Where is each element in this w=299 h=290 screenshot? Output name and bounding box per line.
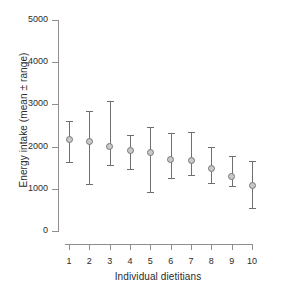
error-bar-cap-lower (147, 192, 154, 193)
data-point-marker (127, 147, 134, 154)
y-tick-label: 5000 (14, 15, 48, 24)
error-bar-chart: Energy intake (mean ± range) 01000200030… (0, 0, 299, 290)
y-tick-mark (52, 62, 58, 63)
error-bar-cap-upper (188, 132, 195, 133)
x-tick-mark (89, 244, 90, 250)
x-tick-mark (110, 244, 111, 250)
x-tick-label: 2 (79, 256, 99, 266)
data-point-marker (228, 173, 235, 180)
x-tick-mark (150, 244, 151, 250)
error-bar-cap-lower (127, 169, 134, 170)
error-bar-line (191, 132, 192, 175)
y-tick-label: 3000 (14, 99, 48, 108)
error-bar-cap-upper (127, 135, 134, 136)
x-tick-mark (211, 244, 212, 250)
x-tick-label: 8 (201, 256, 221, 266)
x-tick-mark (130, 244, 131, 250)
data-point-marker (86, 138, 93, 145)
x-tick-mark (69, 244, 70, 250)
error-bar-cap-lower (86, 184, 93, 185)
y-tick-mark (52, 189, 58, 190)
y-tick-mark (52, 104, 58, 105)
y-tick-label: 2000 (14, 142, 48, 151)
y-tick-label: 0 (14, 226, 48, 235)
x-tick-label: 6 (161, 256, 181, 266)
x-tick-mark (171, 244, 172, 250)
data-point-marker (188, 157, 195, 164)
error-bar-cap-lower (208, 183, 215, 184)
data-point-marker (167, 156, 174, 163)
error-bar-line (150, 127, 151, 192)
y-tick-mark (52, 20, 58, 21)
error-bar-cap-upper (229, 156, 236, 157)
y-tick-label: 1000 (14, 184, 48, 193)
error-bar-cap-upper (66, 121, 73, 122)
error-bar-line (110, 101, 111, 165)
y-tick-mark (52, 231, 58, 232)
error-bar-cap-upper (86, 111, 93, 112)
x-tick-mark (252, 244, 253, 250)
x-tick-label: 1 (59, 256, 79, 266)
error-bar-cap-lower (188, 175, 195, 176)
y-axis-line (58, 20, 59, 232)
error-bar-cap-upper (208, 147, 215, 148)
x-tick-label: 4 (120, 256, 140, 266)
error-bar-cap-upper (168, 133, 175, 134)
data-point-marker (66, 136, 73, 143)
data-point-marker (106, 143, 113, 150)
x-tick-label: 10 (242, 256, 262, 266)
x-axis-label: Individual dietitians (58, 271, 258, 282)
y-axis-label: Energy intake (mean ± range) (16, 5, 32, 235)
x-tick-mark (191, 244, 192, 250)
error-bar-cap-lower (66, 162, 73, 163)
x-tick-label: 5 (140, 256, 160, 266)
error-bar-line (232, 156, 233, 186)
error-bar-cap-lower (249, 208, 256, 209)
x-axis-line (65, 244, 253, 245)
data-point-marker (208, 165, 215, 172)
error-bar-line (89, 111, 90, 184)
x-tick-label: 3 (100, 256, 120, 266)
data-point-marker (147, 149, 154, 156)
error-bar-cap-upper (107, 101, 114, 102)
y-tick-mark (52, 147, 58, 148)
error-bar-cap-upper (249, 161, 256, 162)
x-tick-label: 7 (181, 256, 201, 266)
error-bar-cap-lower (107, 165, 114, 166)
error-bar-cap-lower (168, 178, 175, 179)
error-bar-cap-upper (147, 127, 154, 128)
error-bar-cap-lower (229, 186, 236, 187)
data-point-marker (249, 182, 256, 189)
x-tick-mark (232, 244, 233, 250)
x-tick-label: 9 (222, 256, 242, 266)
y-tick-label: 4000 (14, 57, 48, 66)
